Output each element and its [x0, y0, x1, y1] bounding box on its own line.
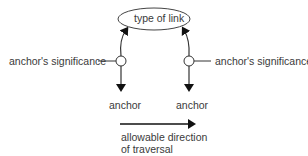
right-significance-node — [184, 56, 194, 66]
left-link-arrow — [121, 30, 126, 56]
left-significance-label: anchor's significance — [9, 55, 106, 67]
right-link-arrow — [184, 30, 189, 56]
link-type-label: type of link — [134, 12, 184, 24]
direction-label-line1: allowable direction — [121, 131, 207, 143]
right-significance-label: anchor's significance — [215, 55, 308, 67]
direction-label-line2: of traversal — [121, 143, 173, 155]
left-anchor-label: anchor — [109, 99, 141, 111]
left-significance-node — [116, 56, 126, 66]
right-anchor-label: anchor — [176, 99, 208, 111]
